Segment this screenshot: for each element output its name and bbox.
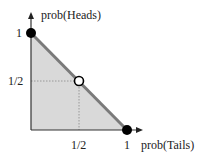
x-tick-1: 1 (124, 139, 130, 151)
point-heads-certain (26, 28, 36, 38)
point-fair-coin (75, 77, 84, 86)
y-tick-half: 1/2 (8, 75, 23, 87)
x-axis-label: prob(Tails) (141, 139, 194, 151)
y-tick-1: 1 (16, 27, 22, 39)
point-tails-certain (122, 125, 132, 135)
x-axis-arrow-icon (136, 127, 143, 133)
probability-diagram: prob(Heads) 1 1/2 1/2 1 prob(Tails) (0, 0, 209, 158)
y-axis-arrow-icon (28, 12, 34, 19)
diagram-canvas (0, 0, 209, 158)
y-axis-label: prob(Heads) (41, 9, 101, 21)
x-tick-half: 1/2 (71, 139, 86, 151)
